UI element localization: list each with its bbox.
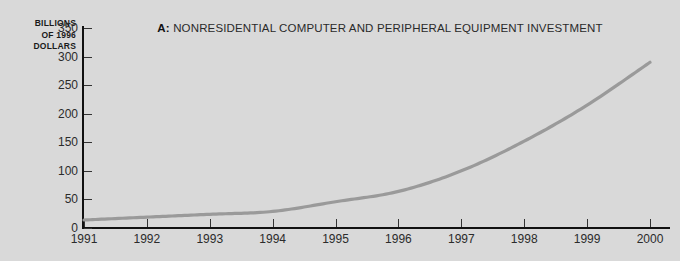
data-line-nonresidential-investment xyxy=(84,62,650,220)
chart-figure: BILLIONS OF 1996 DOLLARS A: NONRESIDENTI… xyxy=(0,0,680,261)
series-layer xyxy=(0,0,680,261)
